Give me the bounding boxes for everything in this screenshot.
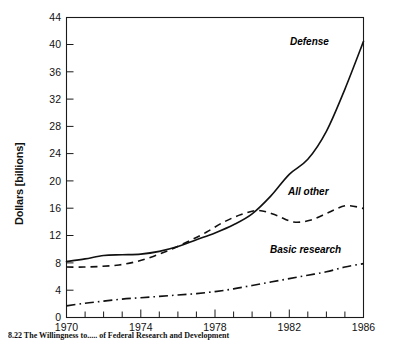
y-tick-label: 8 xyxy=(55,257,61,269)
y-tick-label: 16 xyxy=(49,202,61,214)
y-tick-label: 4 xyxy=(55,284,61,296)
figure-caption: 8.22 The Willingness to..... of Federal … xyxy=(8,331,394,340)
x-tick-1982: 1982 xyxy=(278,310,302,334)
y-tick-20: 20 xyxy=(49,175,73,187)
y-tick-label: 36 xyxy=(49,66,61,78)
y-tick-44: 44 xyxy=(49,11,73,23)
y-tick-36: 36 xyxy=(49,66,73,78)
y-tick-label: 20 xyxy=(49,175,61,187)
series-label-basic-research: Basic research xyxy=(270,244,341,255)
series-line-defense xyxy=(67,41,364,261)
y-axis-title: Dollars [billions] xyxy=(13,142,25,225)
x-tick-1986: 1986 xyxy=(352,310,376,334)
y-tick-32: 32 xyxy=(49,93,73,105)
y-tick-label: 24 xyxy=(49,147,61,159)
series-label-defense: Defense xyxy=(290,36,329,47)
y-tick-label: 44 xyxy=(49,11,61,23)
y-tick-40: 40 xyxy=(49,38,73,50)
y-tick-label: 28 xyxy=(49,120,61,132)
x-axis-ticks: 1970 1974 1978 1982 1986 xyxy=(55,310,376,334)
y-tick-28: 28 xyxy=(49,120,73,132)
y-axis-ticks: 0 4 8 12 16 20 xyxy=(49,11,73,323)
x-tick-1978: 1978 xyxy=(203,310,227,334)
figure-container: Dollars [billions] 0 4 8 12 16 xyxy=(0,0,395,346)
series-label-all-other: All other xyxy=(287,186,330,197)
series-line-all-other xyxy=(67,206,364,268)
y-tick-label: 12 xyxy=(49,229,61,241)
series-line-basic-research xyxy=(67,264,364,306)
y-tick-label: 32 xyxy=(49,93,61,105)
y-tick-4: 4 xyxy=(55,284,73,296)
y-tick-label: 40 xyxy=(49,38,61,50)
y-tick-12: 12 xyxy=(49,229,73,241)
x-tick-1974: 1974 xyxy=(129,310,153,334)
line-chart: Dollars [billions] 0 4 8 12 16 xyxy=(0,0,395,346)
y-tick-16: 16 xyxy=(49,202,73,214)
y-tick-24: 24 xyxy=(49,147,73,159)
